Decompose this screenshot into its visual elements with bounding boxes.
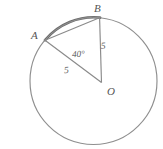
radius-oa-length-label: 5: [64, 66, 69, 76]
point-label-b: B: [94, 3, 101, 14]
radius-ob-length-label: 5: [101, 42, 106, 52]
point-label-o: O: [107, 86, 115, 97]
point-label-a: A: [31, 30, 38, 41]
central-angle-label: 40°: [72, 50, 85, 60]
geometry-figure: A B O 5 5 40°: [0, 0, 163, 149]
radius-oa-segment: [44, 40, 102, 83]
geometry-canvas: [0, 0, 163, 149]
